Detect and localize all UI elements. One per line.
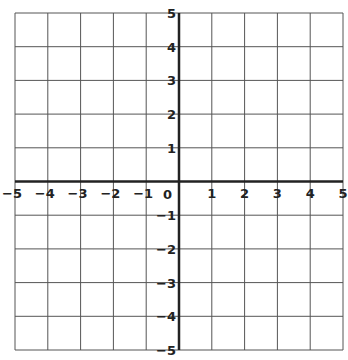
x-tick-label: 3 <box>273 187 282 200</box>
coordinate-plane: −5−4−3−2−11234554321−1−2−3−4−5 0 <box>0 0 348 360</box>
y-tick-label: 1 <box>167 141 176 154</box>
x-tick-label: 1 <box>207 187 216 200</box>
x-tick-label: −3 <box>68 187 88 200</box>
x-tick-label: 4 <box>306 187 315 200</box>
origin-label: 0 <box>163 188 172 201</box>
x-tick-label: −1 <box>133 187 153 200</box>
y-tick-label: −4 <box>156 310 176 323</box>
y-tick-label: 4 <box>167 40 176 53</box>
y-tick-label: 2 <box>167 108 176 121</box>
y-tick-label: −5 <box>156 344 176 357</box>
x-tick-label: −5 <box>2 187 22 200</box>
y-tick-label: −3 <box>156 276 176 289</box>
x-tick-label: −4 <box>35 187 55 200</box>
y-tick-label: −1 <box>156 209 176 222</box>
y-tick-label: −2 <box>156 242 176 255</box>
x-tick-label: 5 <box>338 187 347 200</box>
x-tick-label: 2 <box>240 187 249 200</box>
y-tick-label: 3 <box>167 74 176 87</box>
x-tick-label: −2 <box>100 187 120 200</box>
y-tick-label: 5 <box>167 7 176 20</box>
